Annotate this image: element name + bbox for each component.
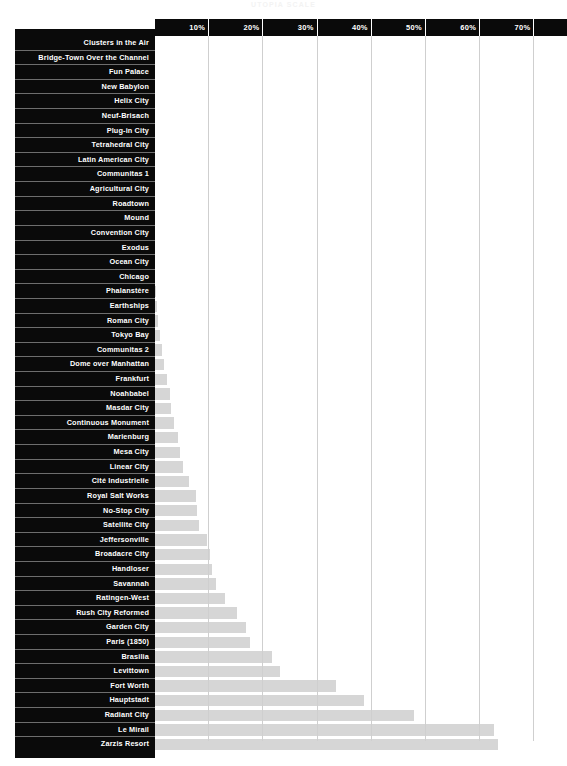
bar (155, 490, 196, 501)
bar (155, 593, 225, 604)
bar-row (155, 591, 567, 606)
gridline-60pct (479, 36, 480, 741)
bar-row (155, 650, 567, 665)
bar (155, 301, 157, 312)
bar-row (155, 36, 567, 51)
bar-row (155, 124, 567, 139)
bar-row (155, 547, 567, 562)
bar-row (155, 314, 567, 329)
bar-row (155, 504, 567, 519)
bar (155, 403, 171, 414)
bar-row (155, 664, 567, 679)
category-label: Satellite City (15, 518, 155, 533)
bar (155, 520, 199, 531)
bar (155, 607, 237, 618)
bar-row (155, 153, 567, 168)
x-axis-tick-40pct: 40% (318, 19, 372, 36)
x-axis-tick-20pct: 20% (209, 19, 263, 36)
bar (155, 315, 158, 326)
x-axis-tick-70pct: 70% (480, 19, 534, 36)
bar-row (155, 138, 567, 153)
category-label: Zarzis Resort (15, 737, 155, 752)
chart-title: UTOPIA SCALE (0, 0, 567, 10)
category-label: Earthships (15, 299, 155, 314)
bar-row (155, 635, 567, 650)
category-label: Tokyo Bay (15, 328, 155, 343)
bar-row (155, 708, 567, 723)
utopia-scale-chart: UTOPIA SCALE 10%20%30%40%50%60%70% Clust… (0, 0, 567, 766)
category-label: Jeffersonville (15, 533, 155, 548)
category-label: Convention City (15, 226, 155, 241)
category-label: Cité Industrielle (15, 474, 155, 489)
bar-row (155, 693, 567, 708)
bar-row (155, 474, 567, 489)
bar-row (155, 241, 567, 256)
bar-row (155, 577, 567, 592)
category-label: Roadtown (15, 197, 155, 212)
label-column-cap (15, 29, 155, 36)
category-label: New Babylon (15, 80, 155, 95)
bar (155, 564, 212, 575)
x-axis-tick-50pct: 50% (372, 19, 426, 36)
gridline-50pct (425, 36, 426, 741)
bar (155, 330, 160, 341)
bar (155, 637, 250, 648)
x-axis-tick-30pct: 30% (263, 19, 317, 36)
category-label: Continuous Monument (15, 416, 155, 431)
bar-row (155, 299, 567, 314)
category-label: Paris (1850) (15, 635, 155, 650)
category-label: Masdar City (15, 401, 155, 416)
bar (155, 417, 174, 428)
bar-row (155, 51, 567, 66)
category-label: Fort Worth (15, 679, 155, 694)
category-label: Brasilia (15, 650, 155, 665)
bar-row (155, 723, 567, 738)
category-label: Noahbabel (15, 387, 155, 402)
category-label: Clusters in the Air (15, 36, 155, 51)
category-label: Latin American City (15, 153, 155, 168)
bar (155, 286, 156, 297)
bar (155, 680, 336, 691)
category-label-column: Clusters in the AirBridge-Town Over the … (15, 36, 155, 752)
bar (155, 739, 498, 750)
category-label: Ocean City (15, 255, 155, 270)
bar (155, 359, 164, 370)
bar-row (155, 460, 567, 475)
category-label: Levittown (15, 664, 155, 679)
category-label: Garden City (15, 620, 155, 635)
bar-row (155, 562, 567, 577)
bar (155, 374, 167, 385)
category-label: Mesa City (15, 445, 155, 460)
category-label: Communitas 1 (15, 167, 155, 182)
category-label: Phalanstère (15, 284, 155, 299)
bar-row (155, 182, 567, 197)
category-label: Royal Salt Works (15, 489, 155, 504)
category-label: Frankfurt (15, 372, 155, 387)
gridline-30pct (317, 36, 318, 741)
bar (155, 476, 189, 487)
bar-row (155, 737, 567, 752)
bar-row (155, 211, 567, 226)
bar-row (155, 489, 567, 504)
gridline-70pct (533, 36, 534, 741)
category-label: Linear City (15, 460, 155, 475)
bar-row (155, 357, 567, 372)
category-label: Hauptstadt (15, 693, 155, 708)
bar-row (155, 109, 567, 124)
category-label: Marienburg (15, 430, 155, 445)
bars-layer (155, 36, 567, 741)
bar-row (155, 226, 567, 241)
bar (155, 622, 246, 633)
bar (155, 344, 162, 355)
bar (155, 695, 364, 706)
category-label: Bridge-Town Over the Channel (15, 51, 155, 66)
bar-row (155, 445, 567, 460)
bar (155, 534, 207, 545)
category-label: Communitas 2 (15, 343, 155, 358)
chart-body: 10%20%30%40%50%60%70% Clusters in the Ai… (0, 19, 567, 741)
gridline-20pct (262, 36, 263, 741)
bar-row (155, 372, 567, 387)
bar-row (155, 197, 567, 212)
bar-row (155, 518, 567, 533)
bar-row (155, 679, 567, 694)
